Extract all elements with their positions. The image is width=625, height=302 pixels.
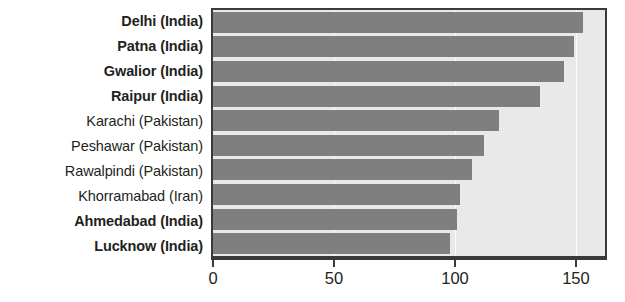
bar-row	[213, 159, 472, 180]
bar	[213, 233, 450, 254]
category-label: Peshawar (Pakistan)	[71, 138, 203, 154]
category-label: Khorramabad (Iran)	[78, 188, 203, 204]
category-label-row: Rawalpindi (Pakistan)	[0, 158, 207, 183]
bar	[213, 61, 564, 82]
bar-row	[213, 110, 499, 131]
bar	[213, 12, 583, 33]
bar-row	[213, 209, 457, 230]
bar-chart: Delhi (India)Patna (India)Gwalior (India…	[0, 0, 625, 302]
bar	[213, 209, 457, 230]
category-label: Raipur (India)	[111, 88, 203, 104]
axis-tick-label: 0	[208, 269, 217, 288]
plot-area	[211, 8, 607, 258]
bar-row	[213, 135, 484, 156]
gridline	[576, 10, 577, 256]
bar	[213, 184, 460, 205]
axis-tick	[454, 258, 456, 267]
category-label: Lucknow (India)	[94, 238, 203, 254]
axis-tick	[212, 258, 214, 267]
category-label: Patna (India)	[117, 38, 203, 54]
axis-tick	[333, 258, 335, 267]
axis-tick-label: 150	[562, 269, 590, 288]
plot-inner	[213, 10, 605, 256]
category-label: Rawalpindi (Pakistan)	[65, 163, 203, 179]
bar	[213, 86, 540, 107]
category-label: Gwalior (India)	[104, 63, 203, 79]
category-label-row: Patna (India)	[0, 33, 207, 58]
category-label-row: Peshawar (Pakistan)	[0, 133, 207, 158]
bar-row	[213, 184, 460, 205]
axis-tick-label: 100	[441, 269, 469, 288]
category-label-row: Karachi (Pakistan)	[0, 108, 207, 133]
bar-row	[213, 12, 583, 33]
category-label-row: Ahmedabad (India)	[0, 208, 207, 233]
bar	[213, 135, 484, 156]
axis-tick	[575, 258, 577, 267]
category-label-row: Gwalior (India)	[0, 58, 207, 83]
category-label-row: Khorramabad (Iran)	[0, 183, 207, 208]
axis-tick-label: 50	[325, 269, 343, 288]
axis-line	[211, 258, 607, 260]
bar	[213, 36, 574, 57]
category-label-row: Raipur (India)	[0, 83, 207, 108]
bar-row	[213, 86, 540, 107]
bar-row	[213, 36, 574, 57]
category-axis-labels: Delhi (India)Patna (India)Gwalior (India…	[0, 8, 207, 258]
bar	[213, 110, 499, 131]
category-label: Delhi (India)	[121, 13, 203, 29]
category-label: Ahmedabad (India)	[74, 213, 203, 229]
category-label-row: Lucknow (India)	[0, 233, 207, 258]
category-label: Karachi (Pakistan)	[86, 113, 203, 129]
value-axis: 050100150	[211, 258, 607, 302]
bar-row	[213, 233, 450, 254]
category-label-row: Delhi (India)	[0, 8, 207, 33]
bar	[213, 159, 472, 180]
bar-row	[213, 61, 564, 82]
